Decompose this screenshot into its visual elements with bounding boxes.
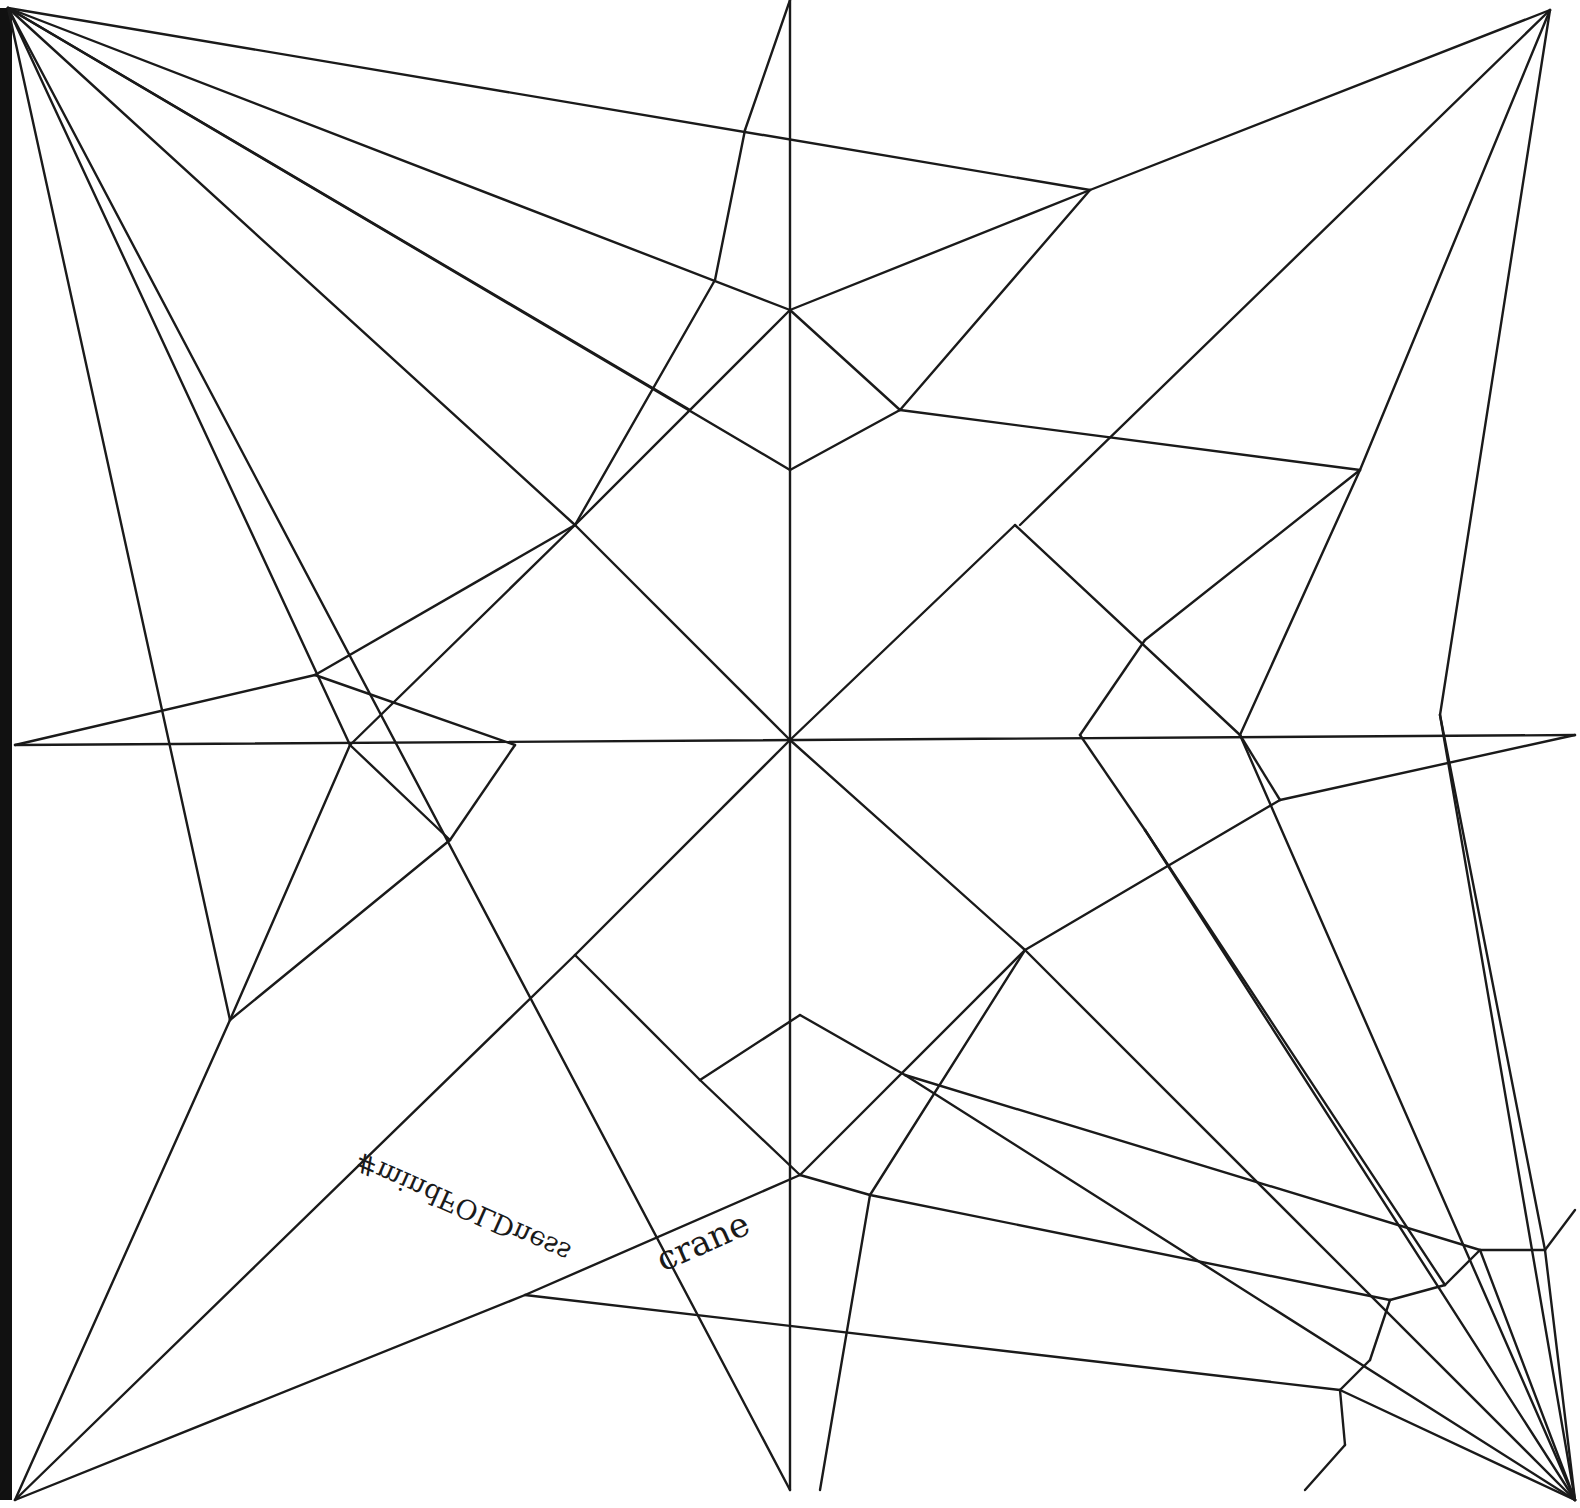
crease-line — [1025, 800, 1280, 950]
crease-line — [1440, 715, 1575, 1500]
crease-line — [800, 1175, 870, 1195]
crease-line — [790, 310, 900, 410]
crease-line — [715, 130, 745, 280]
crease-line — [905, 1075, 1575, 1500]
crease-line — [575, 280, 715, 525]
crease-line — [790, 190, 1090, 310]
crease-line — [800, 1015, 905, 1075]
crease-line — [1020, 10, 1550, 525]
crease-line — [870, 950, 1025, 1195]
crease-line — [1340, 1360, 1370, 1390]
crease-line — [8, 8, 790, 470]
crease-line — [8, 8, 230, 1020]
crease-pattern-canvas: #mindFOLDness crane — [0, 0, 1580, 1508]
crease-line — [15, 1295, 525, 1500]
crease-line — [790, 410, 900, 470]
crease-line — [8, 8, 350, 745]
model-name-label: crane — [650, 1203, 755, 1279]
crease-line — [1145, 470, 1360, 640]
crease-line — [15, 675, 315, 745]
crease-line — [700, 1080, 800, 1175]
crease-line — [575, 955, 700, 1080]
crease-line — [1240, 735, 1280, 800]
crease-line — [1280, 735, 1575, 800]
crease-line — [800, 950, 1025, 1175]
crease-lines — [8, 0, 1575, 1500]
crease-line — [15, 1020, 230, 1500]
crease-line — [700, 1015, 800, 1080]
crease-line — [870, 1195, 1390, 1300]
crease-line — [1015, 525, 1240, 735]
crease-line — [905, 1075, 1480, 1250]
crease-line — [1080, 735, 1145, 830]
crease-line — [790, 525, 1015, 740]
crease-line — [1025, 950, 1575, 1500]
crease-line — [1240, 470, 1360, 735]
crease-line — [230, 745, 350, 1020]
crease-line — [8, 8, 790, 310]
crease-line — [525, 1295, 1340, 1390]
crease-line — [820, 1195, 870, 1490]
crease-line — [575, 310, 790, 525]
label-group: #mindFOLDness crane — [350, 1146, 756, 1279]
crease-line — [230, 840, 450, 1020]
crease-line — [1440, 715, 1545, 1250]
crease-line — [8, 8, 1090, 190]
crease-line — [1445, 1250, 1480, 1285]
crease-line — [8, 8, 575, 525]
crease-line — [1080, 640, 1145, 735]
crease-line — [525, 1175, 800, 1295]
hashtag-label: #mindFOLDness — [350, 1146, 576, 1269]
crease-line — [1305, 1445, 1345, 1490]
crease-line — [1390, 1285, 1445, 1300]
crease-line — [900, 190, 1090, 410]
crease-line — [1090, 10, 1550, 190]
crease-line — [1370, 1300, 1390, 1360]
crease-line — [350, 745, 450, 840]
crease-line — [790, 740, 1025, 950]
crease-line — [745, 0, 790, 130]
crease-line — [575, 740, 790, 955]
crease-line — [575, 525, 790, 740]
crease-line — [1340, 1390, 1345, 1445]
crease-line — [1360, 10, 1550, 470]
crease-line — [1545, 1210, 1575, 1250]
crease-line — [450, 745, 515, 840]
crease-line — [1440, 10, 1550, 715]
